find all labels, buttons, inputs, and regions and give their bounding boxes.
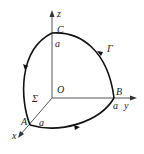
origin-label: O xyxy=(57,85,64,95)
a-distance-label: a xyxy=(39,118,44,128)
surface-sigma-label: Σ xyxy=(32,94,38,104)
b-distance-label: a xyxy=(113,101,118,111)
point-b-label: B xyxy=(116,87,122,97)
curve-gamma-label: Γ xyxy=(107,44,113,54)
x-axis-label: x xyxy=(12,131,16,141)
diagram-canvas: z C a Γ O Σ B a y A a x xyxy=(0,0,144,154)
diagram-svg xyxy=(0,0,144,154)
point-c-label: C xyxy=(57,25,64,35)
y-axis-label: y xyxy=(124,101,128,111)
point-a-label: A xyxy=(21,117,27,127)
c-distance-label: a xyxy=(55,39,60,49)
z-axis xyxy=(50,10,55,98)
z-axis-label: z xyxy=(57,9,61,19)
arrow-ba-icon xyxy=(74,125,80,130)
